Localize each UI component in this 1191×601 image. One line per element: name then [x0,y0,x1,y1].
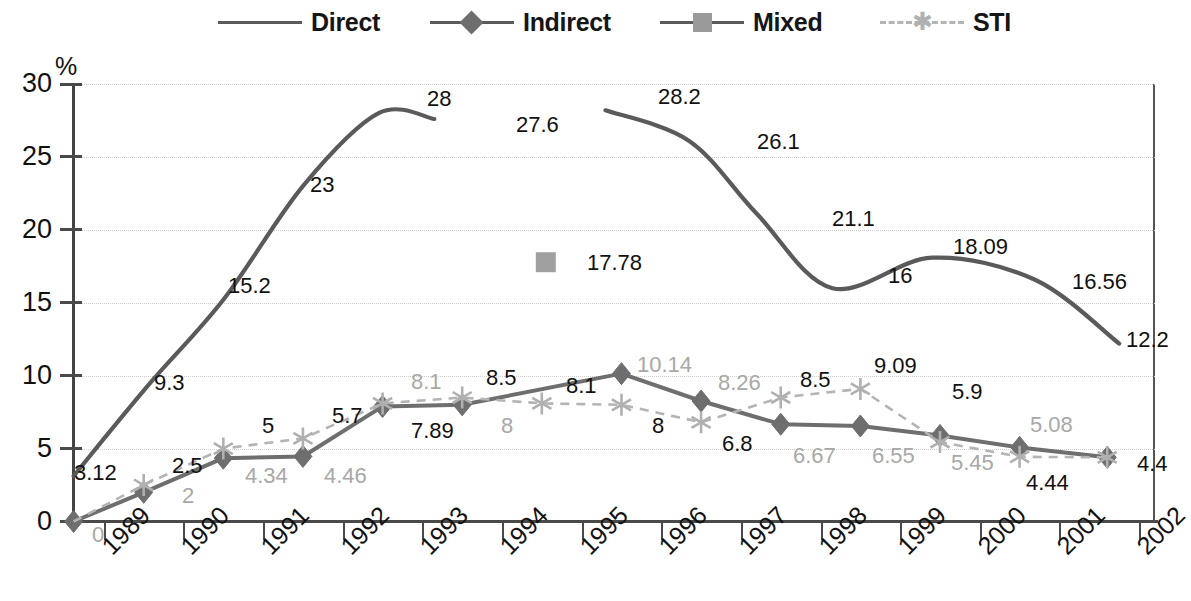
data-point-label: 17.78 [587,252,642,274]
data-point-label: 28.2 [658,86,701,108]
indirect-diamond-marker [612,363,630,385]
data-point-label: 5.9 [952,381,983,403]
data-point-label: 15.2 [228,275,271,297]
data-point-label: 0 [92,524,104,546]
data-point-label: 6.8 [722,433,753,455]
data-point-label: 4.44 [1026,472,1069,494]
data-point-label: 5.45 [951,452,994,474]
data-point-label: 12.2 [1126,329,1169,351]
data-point-label: 5 [262,415,274,437]
data-point-label: 8 [501,415,513,437]
data-point-label: 8.5 [486,367,517,389]
data-point-label: 8 [652,415,664,437]
data-point-label: 18.09 [953,236,1008,258]
data-point-label: 9.09 [874,355,917,377]
data-point-label: 6.55 [872,445,915,467]
data-point-label: 4.46 [324,465,367,487]
data-point-label: 5.08 [1030,414,1073,436]
indirect-diamond-marker [692,390,710,412]
data-point-label: 2.5 [172,455,203,477]
data-point-label: 27.6 [516,114,559,136]
data-point-label: 6.67 [793,445,836,467]
indirect-diamond-marker [772,413,790,435]
data-point-label: 3.12 [74,462,117,484]
data-point-label: 7.89 [411,420,454,442]
data-point-label: 8.26 [718,372,761,394]
data-point-label: 9.3 [154,372,185,394]
data-point-label: 4.4 [1137,453,1168,475]
data-point-label: 16.56 [1072,271,1127,293]
data-point-label: 5.7 [332,405,363,427]
sti-asterisk-marker [692,411,711,433]
data-point-label: 2 [182,485,194,507]
indirect-diamond-marker [851,415,869,437]
data-point-label: 26.1 [757,131,800,153]
sti-asterisk-marker [851,378,870,400]
data-point-label: 23 [310,174,334,196]
data-point-label: 28 [427,88,451,110]
data-point-label: 10.14 [637,354,692,376]
data-point-label: 16 [888,265,912,287]
data-point-label: 8.1 [566,375,597,397]
data-point-label: 21.1 [832,208,875,230]
mixed-square-marker [536,252,556,272]
indirect-diamond-marker [65,511,83,533]
data-point-label: 8.1 [411,371,442,393]
data-point-label: 4.34 [245,465,288,487]
data-point-label: 8.5 [800,369,831,391]
